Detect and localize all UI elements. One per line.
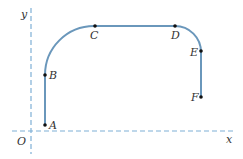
point-b	[43, 73, 47, 77]
label-b: B	[48, 69, 57, 82]
point-d	[173, 24, 177, 28]
label-d: D	[170, 29, 180, 42]
label-f: F	[190, 91, 199, 104]
point-e	[199, 49, 203, 53]
x-axis-label: x	[226, 133, 233, 146]
label-e: E	[189, 46, 198, 59]
point-c	[93, 24, 97, 28]
label-a: A	[48, 119, 57, 132]
point-f	[199, 95, 203, 99]
y-axis-label: y	[20, 8, 28, 21]
label-c: C	[90, 29, 99, 42]
origin-label: O	[17, 135, 26, 148]
path-diagram: y O x A B C D E F	[0, 0, 243, 159]
point-a	[43, 123, 47, 127]
